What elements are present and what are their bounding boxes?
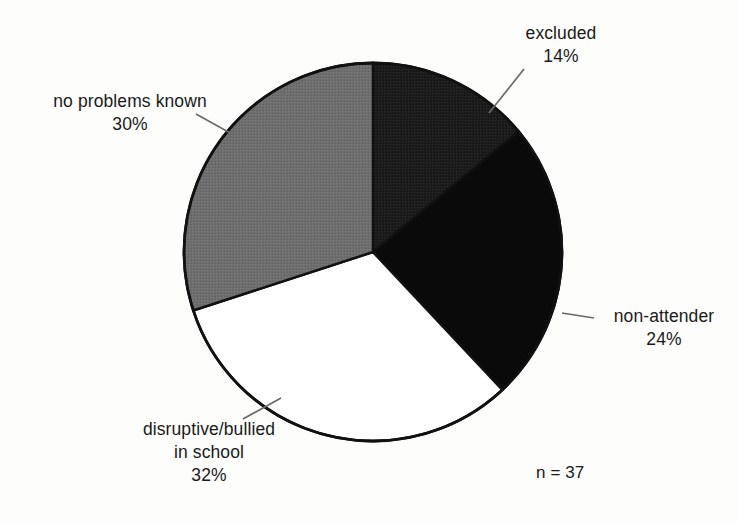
- pie-label-no-problems-known-text: no problems known: [32, 90, 228, 113]
- pie-label-no-problems-known: no problems known 30%: [32, 90, 228, 136]
- pie-label-disruptive-bullied-text-line2: in school: [98, 441, 320, 464]
- pie-label-excluded-percent: 14%: [496, 45, 626, 68]
- pie-label-excluded: excluded 14%: [496, 22, 626, 68]
- pie-label-disruptive-bullied-text-line1: disruptive/bullied: [98, 418, 320, 441]
- pie-label-non-attender-percent: 24%: [598, 328, 730, 351]
- pie-label-no-problems-known-percent: 30%: [32, 113, 228, 136]
- pie-chart-figure: excluded 14% no problems known 30% non-a…: [0, 0, 738, 522]
- pie-label-non-attender-text: non-attender: [598, 305, 730, 328]
- leader-line-excluded: [489, 69, 524, 113]
- pie-label-excluded-text: excluded: [496, 22, 626, 45]
- sample-size-note: n = 37: [536, 462, 584, 484]
- pie-label-disruptive-bullied-percent: 32%: [98, 464, 320, 487]
- pie-label-non-attender: non-attender 24%: [598, 305, 730, 351]
- leader-line-non-attender: [562, 313, 594, 318]
- pie-label-disruptive-bullied: disruptive/bullied in school 32%: [98, 418, 320, 487]
